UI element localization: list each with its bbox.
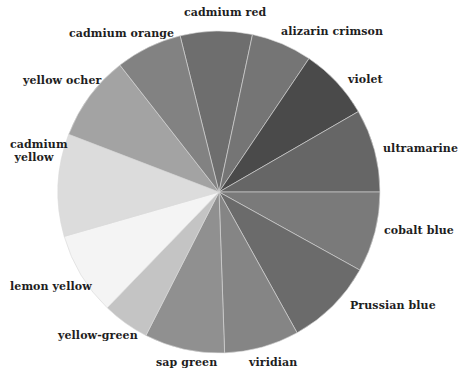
label-cobalt-blue: cobalt blue: [384, 224, 454, 237]
label-cadmium-yellow-line1: cadmium: [10, 138, 58, 151]
label-yellow-ocher: yellow ocher: [23, 74, 101, 87]
label-cadmium-orange: cadmium orange: [69, 27, 174, 40]
label-lemon-yellow: lemon yellow: [10, 280, 92, 293]
label-sap-green: sap green: [156, 356, 217, 369]
label-ultramarine: ultramarine: [383, 142, 458, 155]
label-cadmium-red: cadmium red: [184, 6, 266, 19]
label-viridian: viridian: [249, 356, 297, 369]
label-yellow-green: yellow-green: [58, 329, 138, 342]
label-violet: violet: [348, 73, 383, 86]
label-cadmium-yellow-line2: yellow: [10, 151, 58, 164]
color-wheel-wedges: [58, 31, 380, 353]
label-alizarin-crimson: alizarin crimson: [281, 25, 383, 38]
label-prussian-blue: Prussian blue: [350, 299, 436, 312]
label-cadmium-yellow: cadmium yellow: [10, 138, 58, 164]
